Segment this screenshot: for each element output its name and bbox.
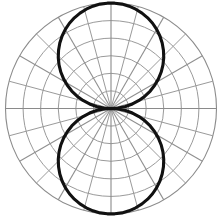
polar-spoke-225deg xyxy=(36,109,111,184)
polar-plot-figure xyxy=(0,0,222,219)
polar-spoke-45deg xyxy=(111,34,186,109)
polar-spoke-315deg xyxy=(111,109,186,184)
polar-spoke-135deg xyxy=(36,34,111,109)
polar-plot-canvas xyxy=(0,0,222,219)
